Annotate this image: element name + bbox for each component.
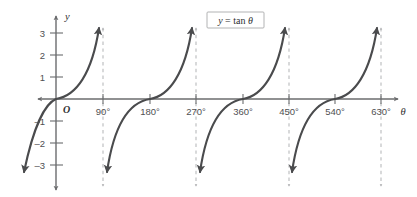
origin-label: O	[63, 104, 70, 115]
y-tick-label: 3	[40, 28, 45, 39]
legend-label: y = tan θ	[217, 15, 253, 26]
x-tick-label: 540°	[325, 106, 345, 117]
x-tick-label: 90°	[96, 106, 111, 117]
y-tick-label: –2	[34, 138, 45, 149]
legend-tan-token: tan	[233, 15, 245, 26]
x-axis-label: θ	[400, 106, 405, 117]
y-axis-label: y	[64, 11, 70, 22]
legend-theta-token: θ	[248, 15, 253, 26]
y-tick-label: –1	[34, 116, 45, 127]
tangent-graph-figure: 3 2 1 –1 –2 –3 90° 180° 270° 360° 450° 5…	[0, 0, 417, 197]
y-tick-label: 1	[40, 72, 45, 83]
x-tick-label: 360°	[233, 106, 253, 117]
x-tick-label: 180°	[140, 106, 160, 117]
legend-equals-token: =	[223, 15, 234, 26]
x-tick-label: 630°	[371, 106, 391, 117]
x-tick-label: 270°	[186, 106, 206, 117]
legend-box: y = tan θ	[207, 12, 264, 28]
tangent-graph-svg: 3 2 1 –1 –2 –3 90° 180° 270° 360° 450° 5…	[0, 0, 417, 197]
x-tick-label: 450°	[279, 106, 299, 117]
y-tick-label: –3	[34, 160, 45, 171]
y-tick-label: 2	[40, 50, 45, 61]
